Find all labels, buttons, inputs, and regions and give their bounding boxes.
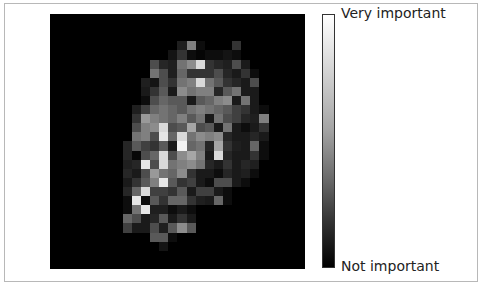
heatmap-cell (105, 205, 114, 214)
heatmap-cell (259, 260, 268, 269)
heatmap-cell (168, 132, 177, 141)
heatmap-cell (278, 169, 287, 178)
heatmap-cell (159, 60, 168, 69)
heatmap-cell (168, 87, 177, 96)
heatmap-cell (96, 96, 105, 105)
heatmap-cell (150, 242, 159, 251)
heatmap-cell (196, 78, 205, 87)
heatmap-cell (141, 178, 150, 187)
heatmap-cell (59, 32, 68, 41)
heatmap-cell (278, 141, 287, 150)
heatmap-cell (223, 114, 232, 123)
heatmap-cell (223, 105, 232, 114)
heatmap-cell (86, 60, 95, 69)
heatmap-cell (278, 223, 287, 232)
heatmap-cell (159, 105, 168, 114)
heatmap-cell (232, 223, 241, 232)
heatmap-cell (96, 23, 105, 32)
heatmap-cell (68, 50, 77, 59)
heatmap-cell (50, 60, 59, 69)
heatmap-cell (214, 233, 223, 242)
heatmap-cell (132, 169, 141, 178)
heatmap-cell (250, 23, 259, 32)
heatmap-cell (86, 14, 95, 23)
heatmap-cell (241, 23, 250, 32)
heatmap-cell (187, 233, 196, 242)
heatmap-cell (168, 114, 177, 123)
heatmap-cell (259, 14, 268, 23)
heatmap-cell (132, 23, 141, 32)
heatmap-cell (123, 114, 132, 123)
heatmap-cell (259, 205, 268, 214)
heatmap-cell (223, 160, 232, 169)
heatmap-cell (96, 187, 105, 196)
heatmap-cell (159, 14, 168, 23)
heatmap-cell (132, 123, 141, 132)
heatmap-cell (177, 41, 186, 50)
heatmap-cell (150, 260, 159, 269)
heatmap-cell (187, 50, 196, 59)
heatmap-cell (59, 169, 68, 178)
heatmap-cell (278, 251, 287, 260)
heatmap-cell (187, 114, 196, 123)
heatmap-cell (150, 23, 159, 32)
heatmap-cell (269, 50, 278, 59)
heatmap-cell (86, 78, 95, 87)
heatmap-cell (159, 32, 168, 41)
heatmap-cell (287, 105, 296, 114)
heatmap-cell (105, 196, 114, 205)
heatmap-cell (269, 260, 278, 269)
heatmap-cell (50, 196, 59, 205)
heatmap-cell (269, 196, 278, 205)
heatmap-cell (296, 132, 305, 141)
heatmap-cell (114, 78, 123, 87)
heatmap-cell (168, 214, 177, 223)
heatmap-cell (269, 214, 278, 223)
heatmap-cell (77, 132, 86, 141)
heatmap-cell (168, 141, 177, 150)
heatmap-cell (123, 178, 132, 187)
heatmap-cell (196, 251, 205, 260)
heatmap-cell (59, 141, 68, 150)
heatmap-cell (68, 160, 77, 169)
heatmap-cell (177, 14, 186, 23)
heatmap-cell (187, 169, 196, 178)
heatmap-cell (159, 160, 168, 169)
heatmap-cell (77, 233, 86, 242)
heatmap-cell (132, 50, 141, 59)
heatmap-cell (205, 260, 214, 269)
heatmap-cell (141, 132, 150, 141)
heatmap-cell (132, 41, 141, 50)
heatmap-cell (259, 160, 268, 169)
heatmap-cell (259, 141, 268, 150)
heatmap-cell (250, 178, 259, 187)
heatmap-cell (214, 105, 223, 114)
heatmap-cell (77, 78, 86, 87)
heatmap-cell (241, 160, 250, 169)
heatmap-cell (259, 169, 268, 178)
heatmap-cell (159, 233, 168, 242)
heatmap-cell (50, 260, 59, 269)
heatmap-cell (50, 233, 59, 242)
heatmap-cell (150, 178, 159, 187)
heatmap-cell (269, 251, 278, 260)
heatmap-cell (241, 123, 250, 132)
heatmap-cell (141, 32, 150, 41)
heatmap-cell (59, 151, 68, 160)
heatmap-cell (159, 187, 168, 196)
heatmap-cell (177, 205, 186, 214)
heatmap-cell (187, 23, 196, 32)
heatmap-cell (241, 132, 250, 141)
heatmap-cell (168, 223, 177, 232)
heatmap-cell (150, 32, 159, 41)
heatmap-cell (259, 196, 268, 205)
heatmap-cell (150, 14, 159, 23)
heatmap-cell (105, 178, 114, 187)
heatmap-cell (205, 233, 214, 242)
heatmap-cell (68, 96, 77, 105)
heatmap-cell (269, 242, 278, 251)
heatmap-cell (223, 50, 232, 59)
heatmap-cell (86, 214, 95, 223)
heatmap-cell (177, 178, 186, 187)
heatmap-cell (132, 14, 141, 23)
